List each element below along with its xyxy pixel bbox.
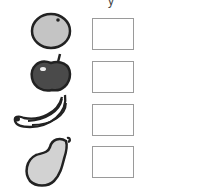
answer-box-apple[interactable] (92, 61, 134, 93)
answer-box-orange[interactable] (92, 18, 134, 50)
apple-icon (28, 52, 74, 94)
pear-icon (22, 133, 74, 189)
banana-icon (10, 93, 72, 135)
answer-box-pear[interactable] (92, 146, 134, 178)
orange-icon (28, 10, 74, 50)
cropped-heading-text: y (108, 0, 114, 8)
answer-box-banana[interactable] (92, 104, 134, 136)
